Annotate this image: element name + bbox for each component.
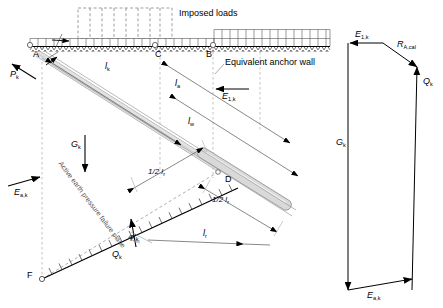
force-arrow-eak-main bbox=[8, 177, 40, 186]
dimension-half-lr-lower bbox=[203, 180, 283, 236]
force-label-e1k-main: E1,k bbox=[222, 92, 235, 101]
block-load-dashed bbox=[78, 8, 172, 39]
figure-vector-layer bbox=[0, 0, 443, 308]
polygon-label-gk: Gk bbox=[336, 138, 346, 147]
equivalent-anchor-wall-label: Equivalent anchor wall bbox=[225, 58, 315, 67]
point-label-f: F bbox=[27, 271, 33, 280]
point-label-a: A bbox=[33, 50, 39, 59]
angle-label-phi-prime-k: φ'k bbox=[129, 233, 139, 241]
point-label-c: C bbox=[155, 50, 162, 59]
dimension-label-lw: lw bbox=[188, 117, 194, 126]
dimension-half-lr-upper bbox=[131, 140, 207, 192]
figure-root: Imposed loads Equivalent anchor wall A C… bbox=[0, 0, 443, 308]
force-label-pk: Pk bbox=[10, 70, 19, 79]
dimension-label-half-lr-lower: 1/2 lr bbox=[212, 196, 229, 204]
dimension-label-half-lr-upper: 1/2 lr bbox=[148, 168, 165, 176]
dimension-label-lr: lr bbox=[203, 229, 207, 238]
slip-surface bbox=[39, 185, 238, 282]
point-d-marker bbox=[216, 170, 221, 175]
dimension-la bbox=[168, 66, 290, 143]
force-label-gk-main: Gk bbox=[71, 140, 81, 149]
leader-equivalent-anchor-wall bbox=[215, 64, 224, 74]
polygon-label-qk: Qk bbox=[423, 77, 433, 86]
dimension-lk bbox=[52, 63, 181, 145]
ground-surface bbox=[30, 47, 330, 53]
point-label-b: B bbox=[206, 50, 212, 59]
force-label-eak-main: Ea,k bbox=[14, 188, 27, 197]
dimension-lr bbox=[148, 240, 270, 245]
polygon-label-racal: RA,cal bbox=[397, 40, 416, 49]
point-label-d: D bbox=[225, 175, 232, 184]
dimension-label-la: la bbox=[175, 79, 180, 88]
dimension-label-lk: lk bbox=[105, 62, 110, 71]
polygon-label-eak: Ea,k bbox=[367, 291, 380, 300]
force-label-qk-main: Qk bbox=[112, 250, 122, 259]
dimension-lw bbox=[176, 99, 298, 176]
polygon-label-e1k: E1,k bbox=[355, 30, 368, 39]
imposed-loads-label: Imposed loads bbox=[179, 9, 238, 18]
force-polygon bbox=[348, 43, 417, 290]
active-failure-plane bbox=[42, 172, 218, 279]
anchor-tendon bbox=[36, 51, 223, 172]
imposed-load-distribution bbox=[30, 30, 330, 47]
